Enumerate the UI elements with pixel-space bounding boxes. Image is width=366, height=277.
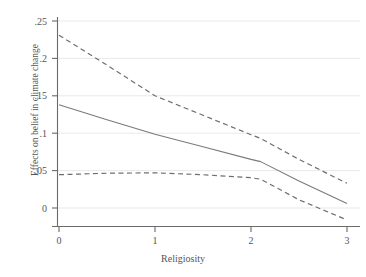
x-axis-title: Religiosity — [0, 253, 366, 264]
y-axis-title: Effects on belief in climate change — [30, 15, 40, 205]
gridlines — [57, 21, 360, 208]
x-tick-label-0: 0 — [47, 235, 71, 246]
series-line-0 — [59, 35, 347, 183]
series-line-2 — [59, 173, 347, 220]
x-tick-label-3: 3 — [335, 235, 359, 246]
y-tick-marks — [52, 21, 58, 208]
x-tick-label-2: 2 — [239, 235, 263, 246]
data-series-layer — [59, 35, 347, 220]
x-tick-label-1: 1 — [143, 235, 167, 246]
x-tick-marks — [59, 227, 347, 233]
axis-spines — [52, 17, 360, 227]
chart-container: .25 .2 .15 .1 .05 0 0 1 2 3 Effects on b… — [0, 0, 366, 277]
series-line-1 — [59, 105, 347, 204]
